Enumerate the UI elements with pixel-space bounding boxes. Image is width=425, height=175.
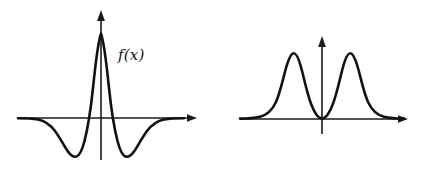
function-label-fx-text: f(x) xyxy=(118,46,145,64)
frequency-domain-svg xyxy=(210,0,425,175)
spatial-domain-svg xyxy=(0,0,210,175)
fourier-transform-pair-figure: f(x) ˆf(ω) xyxy=(0,0,425,175)
spatial-domain-plot: f(x) xyxy=(0,0,210,175)
y-axis-arrowhead-icon xyxy=(97,10,105,21)
y-axis-arrowhead-icon xyxy=(318,36,326,47)
function-label-fx: f(x) xyxy=(118,48,145,63)
x-axis-arrowhead-icon xyxy=(187,114,197,122)
frequency-domain-plot: ˆf(ω) xyxy=(210,0,425,175)
